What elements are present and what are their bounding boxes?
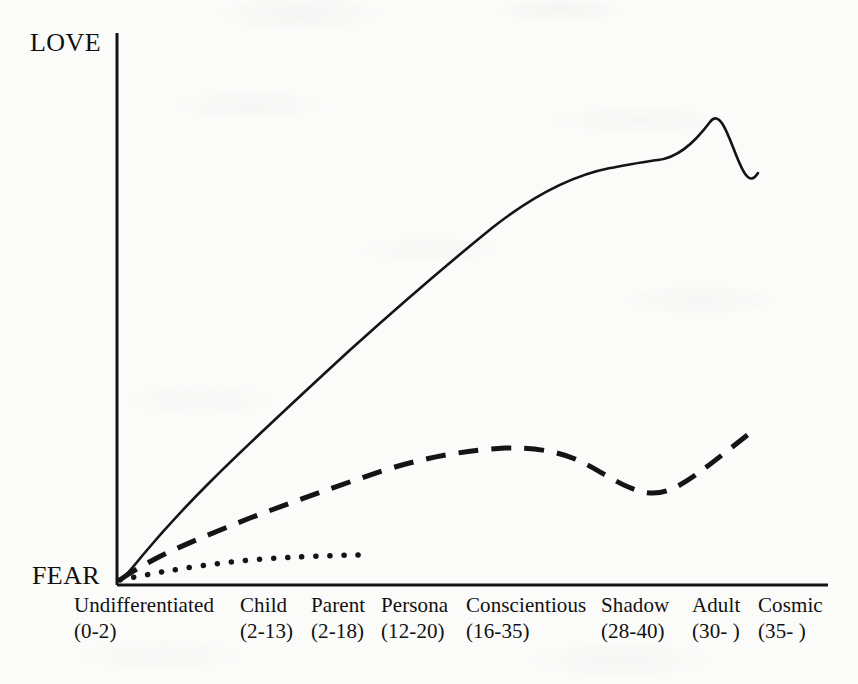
category-shadow-range: (28-40) [601, 618, 669, 645]
category-child: Child (2-13) [240, 592, 293, 645]
category-adult-name: Adult [692, 592, 740, 618]
category-child-range: (2-13) [240, 618, 293, 645]
category-parent-name: Parent [311, 592, 365, 618]
category-parent-range: (2-18) [311, 618, 365, 645]
category-cosmic: Cosmic (35- ) [758, 592, 823, 645]
category-shadow: Shadow (28-40) [601, 592, 669, 645]
category-conscientious-range: (16-35) [466, 618, 586, 645]
series-dashed-line [120, 427, 758, 580]
category-conscientious-name: Conscientious [466, 592, 586, 618]
category-undifferentiated-name: Undifferentiated [74, 592, 214, 618]
category-shadow-name: Shadow [601, 592, 669, 618]
category-persona-range: (12-20) [381, 618, 448, 645]
category-parent: Parent (2-18) [311, 592, 365, 645]
category-conscientious: Conscientious (16-35) [466, 592, 586, 645]
category-adult-range: (30- ) [692, 618, 740, 645]
x-axis-category-labels: Undifferentiated (0-2) Child (2-13) Pare… [0, 592, 858, 662]
category-persona: Persona (12-20) [381, 592, 448, 645]
series-solid-line [120, 118, 758, 580]
category-cosmic-name: Cosmic [758, 592, 823, 618]
category-undifferentiated: Undifferentiated (0-2) [74, 592, 214, 645]
category-undifferentiated-range: (0-2) [74, 618, 214, 645]
category-persona-name: Persona [381, 592, 448, 618]
category-adult: Adult (30- ) [692, 592, 740, 645]
figure-canvas: LOVE FEAR Undifferentiated (0-2) Child (… [0, 0, 858, 684]
category-cosmic-range: (35- ) [758, 618, 823, 645]
category-child-name: Child [240, 592, 293, 618]
chart-plot-area [0, 0, 858, 684]
